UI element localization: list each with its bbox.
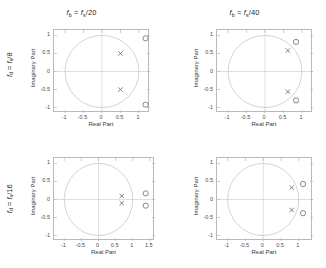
x-tick-label: 0.5 [111,242,119,248]
y-tick-label: 0 [37,196,50,202]
axes-top-right [216,29,312,112]
y-tick-label: 1 [37,31,50,37]
x-tick-label: 0.5 [116,114,124,120]
x-tick-label: -0.5 [78,114,87,120]
zero-marker [143,36,148,41]
xlabel-top-right: Real Part [216,121,312,127]
plot-surface-panel-bottom-left [54,158,155,241]
x-tick-label: -1 [225,114,230,120]
y-tick-label: -1 [200,104,213,110]
zero-marker [293,39,298,44]
y-tick-label: -1 [37,232,50,238]
x-tick-label: 0 [99,114,102,120]
y-tick-label: 1 [200,31,213,37]
y-tick-label: -0.5 [200,214,213,220]
y-tick-label: -0.5 [37,86,50,92]
xlabel-top-left: Real Part [53,121,149,127]
zero-marker [143,191,148,196]
x-tick-label: 0 [96,242,99,248]
plot-surface-panel-top-left [54,30,150,113]
panel-bottom-left: Imaginary Part Real Part -1-0.500.511.5-… [0,134,163,268]
x-tick-label: 0.5 [276,242,284,248]
x-tick-label: 0 [262,114,265,120]
axes-top-left [53,29,149,112]
y-tick-label: -1 [200,232,213,238]
y-tick-label: 1 [37,159,50,165]
xlabel-bottom-right: Real Part [216,249,312,255]
plot-surface-panel-top-right [217,30,313,113]
y-tick-label: -0.5 [37,214,50,220]
panel-title-top-right: fb = fs/40 [163,8,326,18]
x-tick-label: -0.5 [240,242,249,248]
series-zeros [300,181,305,215]
panel-bottom-right: Imaginary Part Real Part -1-0.500.51-1-0… [163,134,326,268]
x-tick-label: -1 [62,114,67,120]
y-tick-label: 0.5 [37,49,50,55]
y-tick-label: 0.5 [200,49,213,55]
panel-top-right: fb = fs/40 Imaginary Part Real Part -1-0… [163,0,326,134]
y-tick-label: 0.5 [200,177,213,183]
panel-top-left: fb = fs/20 Imaginary Part Real Part -1-0… [0,0,163,134]
panel-title-top-left: fb = fs/20 [0,8,163,18]
y-tick-label: -1 [37,104,50,110]
x-tick-label: -1 [61,242,66,248]
x-tick-label: -1 [224,242,229,248]
y-tick-label: 0.5 [37,177,50,183]
zero-marker [143,203,148,208]
figure-canvas: fd = fs/8 fd = fs/16 fb = fs/20 Imaginar… [0,0,326,268]
plot-surface-panel-bottom-right [217,158,313,241]
x-tick-label: 1 [136,114,139,120]
zero-marker [293,98,298,103]
series-poles [286,48,290,94]
zero-marker [300,181,305,186]
x-tick-label: 0.5 [279,114,287,120]
axes-bottom-left [53,157,154,240]
x-tick-label: 1 [296,242,299,248]
zero-marker [300,211,305,216]
y-tick-label: 0 [37,68,50,74]
xlabel-bottom-left: Real Part [53,249,154,255]
axes-bottom-right [216,157,312,240]
x-tick-label: 1 [299,114,302,120]
y-tick-label: -0.5 [200,86,213,92]
x-tick-label: 1 [130,242,133,248]
x-tick-label: -0.5 [241,114,250,120]
y-tick-label: 0 [200,196,213,202]
series-poles [289,185,293,212]
x-tick-label: -0.5 [76,242,85,248]
y-tick-label: 1 [200,159,213,165]
y-tick-label: 0 [200,68,213,74]
zero-marker [143,102,148,107]
x-tick-label: 1.5 [145,242,153,248]
x-tick-label: 0 [261,242,264,248]
